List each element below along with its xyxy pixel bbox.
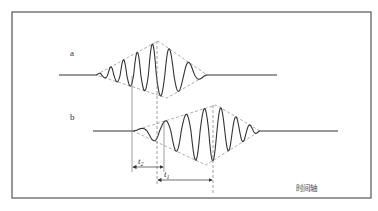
waveform-a xyxy=(59,41,277,98)
interval-t2: t2 xyxy=(133,156,163,167)
interval-t1: t1 xyxy=(158,169,212,180)
waveform-b xyxy=(93,105,338,165)
envelope-b xyxy=(133,105,260,165)
diagram-frame xyxy=(12,12,371,198)
waveform-b-label: b xyxy=(70,112,75,122)
wave-packet-diagram: a b t2 t1 时间轴 xyxy=(0,0,378,211)
svg-text:t2: t2 xyxy=(138,156,144,167)
svg-text:t1: t1 xyxy=(164,169,170,180)
time-axis-label: 时间轴 xyxy=(296,183,317,193)
waveform-a-label: a xyxy=(70,48,74,58)
